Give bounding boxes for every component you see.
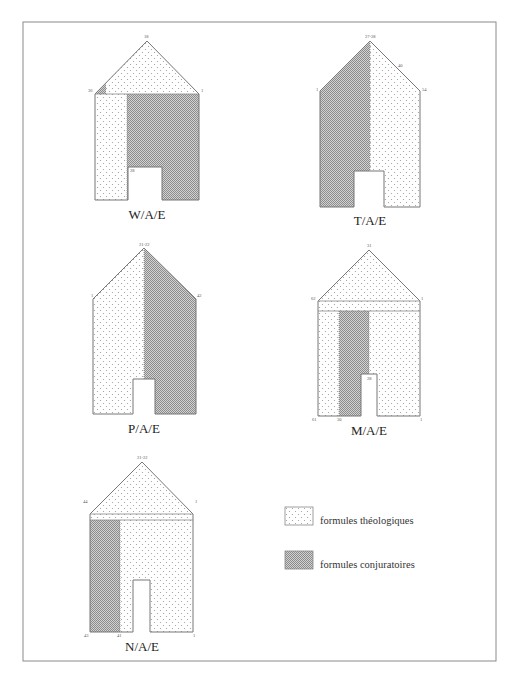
label-base-left: 61 <box>312 417 317 422</box>
figure: 18 36 1 28 W/A/E 27-28 40 1 54 T/A/E 21-… <box>0 0 517 682</box>
legend-label-conjuratoires: formules conjuratoires <box>320 559 415 570</box>
diagram-mae: 31 62 1 28 61 30 1 M/A/E <box>311 243 423 438</box>
diagram-caption: T/A/E <box>354 213 387 228</box>
legend-swatch-dots <box>285 507 313 525</box>
diagram-caption: P/A/E <box>128 421 160 436</box>
hatch-column-area <box>90 520 120 632</box>
right-body-area <box>120 520 193 632</box>
label-right-eave: 1 <box>201 88 203 93</box>
roof-area <box>95 41 199 94</box>
label-left-eave: 1 <box>91 293 93 298</box>
door <box>354 171 384 208</box>
label-base-right: 1 <box>420 417 422 422</box>
label-apex: 21-22 <box>139 242 150 247</box>
label-left-eave: 44 <box>83 499 88 504</box>
label-left-eave: 62 <box>311 296 316 301</box>
label-left-eave: 1 <box>316 87 318 92</box>
left-column-area <box>95 94 127 200</box>
band-area <box>318 301 420 311</box>
label-apex: 27-28 <box>365 34 376 39</box>
label-apex: 31 <box>367 243 372 248</box>
label-apex: 18 <box>144 34 149 39</box>
diagram-tae: 27-28 40 1 54 T/A/E <box>316 34 427 228</box>
diagram-nae: 21-22 44 1 43 41 1 N/A/E <box>83 455 197 654</box>
diagram-pae: 21-22 1 42 P/A/E <box>91 242 202 436</box>
label-base-mid: 30 <box>337 417 342 422</box>
band-area <box>90 514 193 520</box>
label-roof-mid: 40 <box>398 63 403 68</box>
label-apex: 21-22 <box>137 455 148 460</box>
label-door-top: 28 <box>367 376 372 381</box>
diagram-caption: M/A/E <box>351 423 387 438</box>
roof-area <box>90 462 193 514</box>
diagram-caption: W/A/E <box>129 207 166 222</box>
door <box>133 379 155 415</box>
label-right-eave: 54 <box>422 87 427 92</box>
roof-area <box>318 250 420 301</box>
legend-label-theologiques: formules théologiques <box>320 515 414 526</box>
left-column-area <box>318 311 339 416</box>
label-left-eave: 36 <box>88 88 93 93</box>
diagram-caption: N/A/E <box>125 639 159 654</box>
label-base-right: 1 <box>193 633 195 638</box>
diagram-wae: 18 36 1 28 W/A/E <box>88 34 203 222</box>
label-right-eave: 1 <box>195 499 197 504</box>
legend: formules théologiques formules conjurato… <box>285 507 415 570</box>
label-right-eave: 42 <box>197 293 202 298</box>
label-door-top: 28 <box>130 168 135 173</box>
label-right-eave: 1 <box>421 296 423 301</box>
label-base-mid: 41 <box>117 633 122 638</box>
label-base-left: 43 <box>84 633 89 638</box>
legend-swatch-hatch <box>285 551 313 569</box>
door <box>133 580 150 633</box>
